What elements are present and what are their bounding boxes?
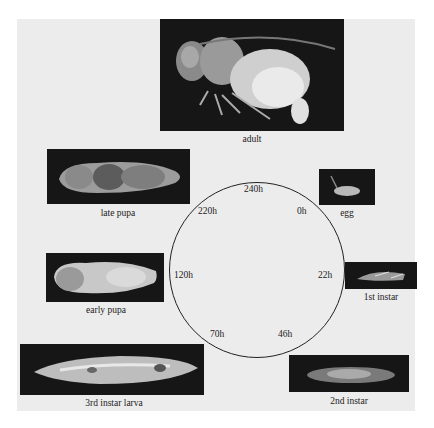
- 3rd-instar-larva-caption: 3rd instar larva: [72, 398, 156, 408]
- 2nd-instar-image: [289, 355, 409, 392]
- 1st-instar-image: [345, 262, 417, 289]
- late-pupa-photo: [47, 149, 190, 204]
- cycle-label-240h: 240h: [244, 184, 263, 194]
- 1st-instar-photo: [345, 262, 417, 289]
- egg-photo: [319, 169, 375, 205]
- 2nd-instar-caption: 2nd instar: [314, 396, 384, 406]
- adult-photo: [160, 19, 344, 131]
- 1st-instar-caption: 1st instar: [348, 292, 414, 302]
- 3rd-instar-larva-photo: [20, 344, 204, 395]
- adult-fly-image: [160, 19, 344, 131]
- late-pupa-image: [47, 149, 190, 204]
- cycle-label-0h: 0h: [297, 206, 307, 216]
- egg-caption: egg: [327, 208, 367, 218]
- early-pupa-photo: [46, 253, 164, 302]
- egg-image: [319, 169, 375, 205]
- early-pupa-caption: early pupa: [76, 305, 136, 315]
- cycle-label-46h: 46h: [278, 329, 292, 339]
- 2nd-instar-photo: [289, 355, 409, 392]
- adult-caption: adult: [230, 134, 274, 144]
- early-pupa-image: [46, 253, 164, 302]
- cycle-label-70h: 70h: [210, 329, 224, 339]
- cycle-label-22h: 22h: [318, 270, 332, 280]
- cycle-label-120h: 120h: [174, 270, 193, 280]
- late-pupa-caption: late pupa: [88, 208, 148, 218]
- 3rd-instar-larva-image: [20, 344, 204, 395]
- cycle-label-220h: 220h: [198, 206, 217, 216]
